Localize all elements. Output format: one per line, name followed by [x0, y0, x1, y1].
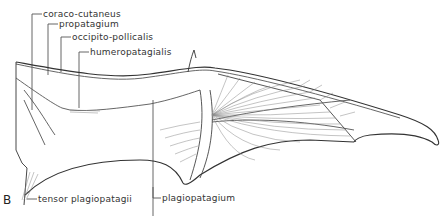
label-plagiopatagium: plagiopatagium	[162, 193, 235, 203]
label-coraco-cutaneus: coraco-cutaneus	[43, 9, 121, 19]
panel-letter: B	[3, 193, 11, 207]
label-occipito-pollicalis: occipito-pollicalis	[72, 32, 153, 42]
label-tensor-plagiopatagii: tensor plagiopatagii	[38, 194, 132, 204]
label-propatagium: propatagium	[59, 19, 119, 29]
label-humeropatagialis: humeropatagialis	[90, 47, 172, 57]
wing-diagram: coraco-cutaneus propatagium occipito-pol…	[0, 0, 447, 216]
wing-drawing	[0, 0, 447, 216]
